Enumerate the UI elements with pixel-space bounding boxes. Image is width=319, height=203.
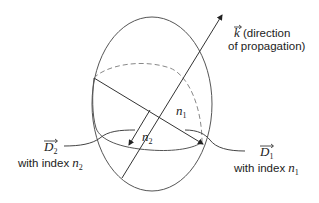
k-vector-label: k (direction bbox=[234, 26, 290, 40]
k-label-line1: (direction bbox=[243, 27, 290, 39]
n1-axis-label: n1 bbox=[176, 104, 187, 122]
d2-index-caption: with index n2 bbox=[18, 156, 83, 174]
k-vector-label-line2: of propagation) bbox=[228, 40, 305, 53]
d2-leader-line bbox=[64, 130, 135, 146]
k-vector-arrow bbox=[122, 15, 222, 178]
n2-axis-label: n2 bbox=[142, 130, 153, 148]
ellipsoid-outline bbox=[92, 17, 212, 191]
d1-index-caption: with index n1 bbox=[234, 161, 299, 179]
d1-leader-line bbox=[185, 130, 245, 151]
k-symbol: k bbox=[234, 26, 240, 39]
